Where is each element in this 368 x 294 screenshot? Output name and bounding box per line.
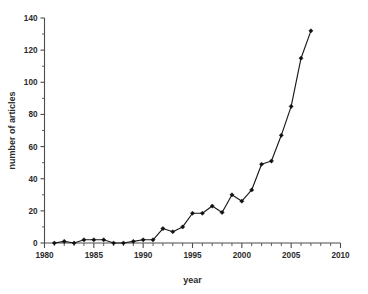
x-axis-title: year — [183, 275, 202, 285]
data-point-marker — [52, 241, 56, 245]
x-axis-tick-label: 1990 — [134, 251, 153, 260]
data-point-marker — [269, 159, 273, 163]
y-axis-group: 020406080100120140 — [24, 14, 45, 248]
x-axis-tick-label: 1985 — [85, 251, 104, 260]
y-axis-title: number of articles — [7, 91, 17, 169]
chart-plot-area: 020406080100120140 198019851990199520002… — [0, 0, 368, 294]
line-chart-figure: 020406080100120140 198019851990199520002… — [0, 0, 368, 294]
data-point-marker — [111, 241, 115, 245]
y-axis-tick-label: 80 — [28, 110, 38, 119]
data-point-marker — [309, 29, 313, 33]
x-axis-tick-label: 2005 — [282, 251, 301, 260]
data-point-marker — [141, 238, 145, 242]
data-point-marker — [259, 162, 263, 166]
y-axis-tick-label: 40 — [28, 175, 38, 184]
x-axis-tick-label: 2010 — [331, 251, 350, 260]
series-group — [52, 29, 313, 245]
data-point-marker — [299, 56, 303, 60]
x-axis-tick-label: 1980 — [35, 251, 54, 260]
y-axis-tick-label: 0 — [33, 239, 38, 248]
x-axis-tick-label: 2000 — [233, 251, 252, 260]
data-point-marker — [121, 241, 125, 245]
data-point-marker — [92, 238, 96, 242]
series-line — [54, 31, 311, 243]
data-point-marker — [289, 104, 293, 108]
y-axis-tick-label: 60 — [28, 143, 38, 152]
data-point-marker — [102, 238, 106, 242]
y-axis-tick-label: 20 — [28, 207, 38, 216]
data-point-marker — [279, 133, 283, 137]
data-point-marker — [72, 241, 76, 245]
data-point-marker — [82, 238, 86, 242]
x-axis-group: 1980198519901995200020052010 — [35, 243, 350, 260]
y-axis-tick-label: 100 — [24, 78, 38, 87]
y-axis-tick-label: 140 — [24, 14, 38, 23]
y-axis-tick-label: 120 — [24, 46, 38, 55]
x-axis-tick-label: 1995 — [183, 251, 202, 260]
data-point-marker — [171, 230, 175, 234]
